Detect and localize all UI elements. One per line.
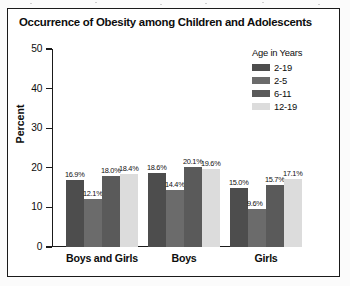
- legend-item: 6-11: [252, 87, 302, 100]
- scan-artifact: [160, 4, 162, 5]
- bar: [184, 167, 202, 247]
- bar-value-label: 18.6%: [147, 163, 166, 172]
- bar: [120, 174, 138, 247]
- legend-swatch: [252, 64, 270, 71]
- legend-title: Age in Years: [252, 47, 302, 58]
- chart-title: Occurrence of Obesity among Children and…: [19, 16, 312, 28]
- chart-frame: Occurrence of Obesity among Children and…: [7, 8, 340, 277]
- bar-group: 18.6%14.4%20.1%19.6%: [148, 49, 220, 247]
- legend-item: 2-5: [252, 74, 302, 87]
- bar-value-label: 18.4%: [119, 164, 138, 173]
- legend-entries: 2-192-56-1112-19: [252, 61, 302, 113]
- bar: [248, 209, 266, 247]
- bar-value-label: 17.1%: [283, 169, 302, 178]
- y-tick-label: 10: [8, 201, 42, 212]
- scan-artifact: [30, 3, 32, 4]
- bar: [266, 185, 284, 247]
- y-tick-label: 50: [8, 43, 42, 54]
- y-tick-label: 0: [8, 241, 42, 252]
- bar: [230, 188, 248, 247]
- bar-value-label: 9.6%: [247, 199, 263, 208]
- legend-swatch: [252, 90, 270, 97]
- y-tick-label: 20: [8, 162, 42, 173]
- bar: [102, 176, 120, 247]
- bar: [284, 179, 302, 247]
- bar: [148, 173, 166, 247]
- bar-group: 16.9%12.1%18.0%18.4%: [66, 49, 138, 247]
- bar-value-label: 15.7%: [265, 175, 284, 184]
- bar-value-label: 14.4%: [165, 180, 184, 189]
- bar-value-label: 16.9%: [65, 170, 84, 179]
- x-axis-category-label: Girls: [216, 252, 316, 264]
- legend-swatch: [252, 77, 270, 84]
- scan-artifact: [262, 2, 264, 3]
- bar-value-label: 12.1%: [83, 189, 102, 198]
- bar-value-label: 15.0%: [229, 178, 248, 187]
- bar: [84, 199, 102, 247]
- scan-artifact: [318, 4, 320, 5]
- legend: Age in Years 2-192-56-1112-19: [252, 47, 302, 113]
- legend-item: 2-19: [252, 61, 302, 74]
- legend-item: 12-19: [252, 100, 302, 113]
- bar: [202, 169, 220, 247]
- legend-label: 6-11: [274, 88, 291, 99]
- bar: [166, 190, 184, 247]
- bar-value-label: 18.0%: [101, 166, 120, 175]
- legend-label: 2-19: [274, 62, 292, 73]
- legend-swatch: [252, 103, 270, 110]
- scan-artifact: [205, 3, 207, 4]
- y-tick-label: 30: [8, 122, 42, 133]
- bar: [66, 180, 84, 247]
- legend-label: 12-19: [274, 101, 297, 112]
- y-tick-label: 40: [8, 83, 42, 94]
- bar-value-label: 19.6%: [201, 159, 220, 168]
- legend-label: 2-5: [274, 75, 287, 86]
- bar-value-label: 20.1%: [183, 157, 202, 166]
- scan-artifact: [95, 2, 97, 3]
